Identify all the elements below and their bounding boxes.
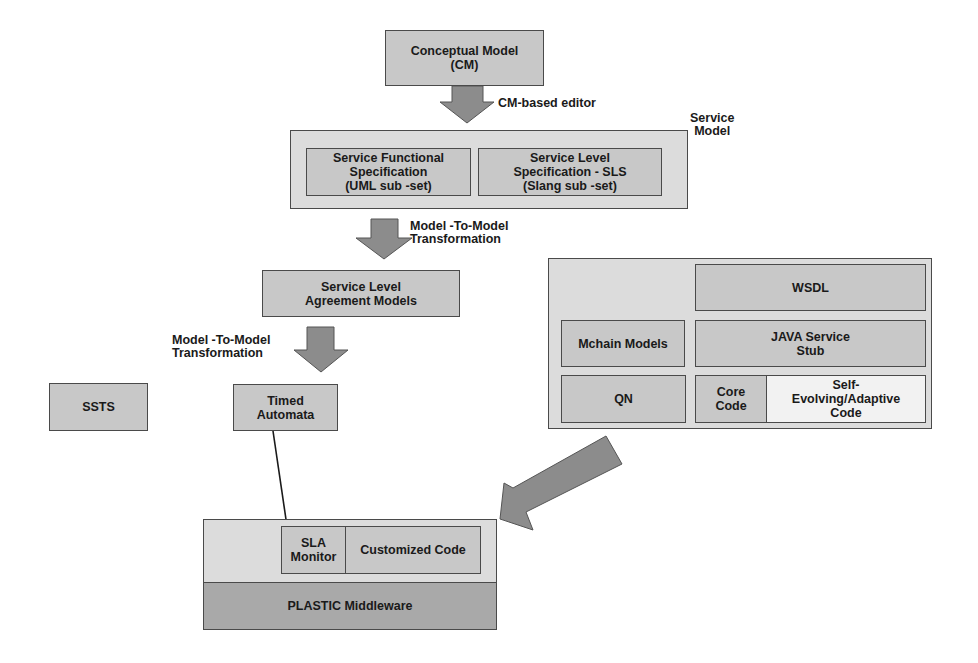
m2m-transformation-label-2: Model -To-Model Transformation [172, 334, 270, 360]
block-arrow-diagonal [500, 436, 622, 530]
conceptual-model-box: Conceptual Model (CM) [385, 30, 544, 86]
service-model-label: Service Model [690, 112, 734, 138]
service-functional-spec-box: Service Functional Specification (UML su… [306, 148, 471, 196]
customized-code-box: Customized Code [345, 526, 481, 574]
m2m-transformation-label-1: Model -To-Model Transformation [410, 220, 508, 246]
service-level-spec-box: Service Level Specification - SLS (Slang… [478, 148, 662, 196]
cm-editor-label: CM-based editor [498, 97, 596, 110]
timed-automata-box: Timed Automata [233, 384, 338, 431]
self-evolving-code-box: Self- Evolving/Adaptive Code [766, 375, 926, 423]
java-service-stub-box: JAVA Service Stub [695, 320, 926, 367]
block-arrow-m2m-2 [294, 327, 348, 372]
mchain-models-box: Mchain Models [561, 320, 685, 367]
diagram-canvas: Conceptual Model (CM) CM-based editor Se… [0, 0, 978, 663]
plastic-middleware-box: PLASTIC Middleware [203, 582, 497, 630]
qn-box: QN [561, 375, 686, 423]
line-arrow-timed-to-monitor [273, 431, 288, 533]
sla-models-box: Service Level Agreement Models [262, 270, 460, 317]
ssts-box: SSTS [49, 383, 148, 431]
block-arrow-cm-editor [440, 86, 494, 123]
sla-monitor-box: SLA Monitor [281, 526, 346, 574]
core-code-box: Core Code [695, 375, 767, 423]
block-arrow-m2m-1 [356, 219, 412, 259]
wsdl-box: WSDL [695, 264, 926, 311]
